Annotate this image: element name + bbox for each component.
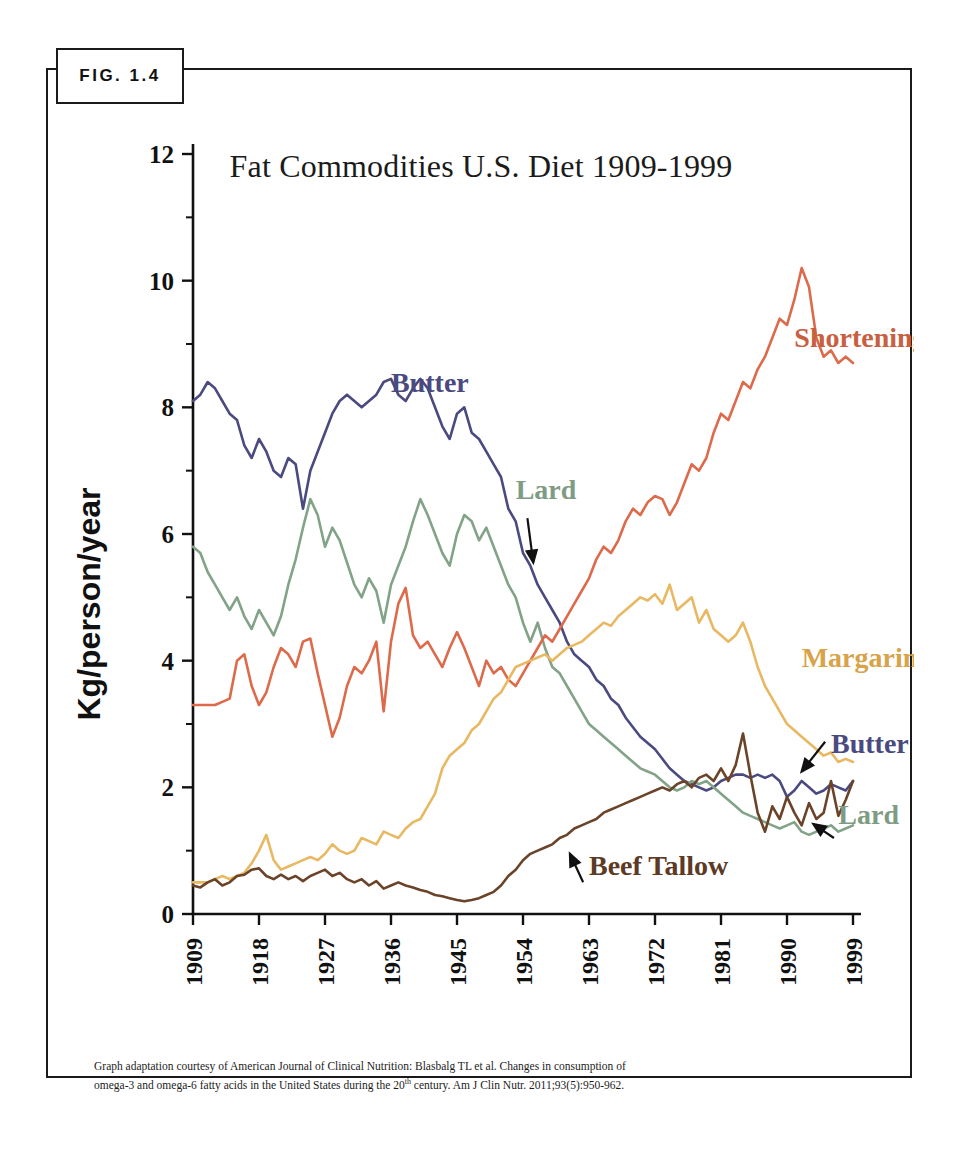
line-chart-svg: 0246810121909191819271936194519541963197… [48, 70, 914, 1080]
axes-group: 0246810121909191819271936194519541963197… [71, 141, 867, 1080]
beef-tallow-label-arrow-head [570, 854, 580, 867]
x-tick-label: 1990 [775, 938, 801, 986]
footnote-line-2a: omega-3 and omega-6 fatty acids in the U… [94, 1079, 405, 1091]
x-tick-label: 1936 [379, 938, 405, 986]
figure-number-label: FIG. 1.4 [79, 66, 160, 86]
figure-frame: Fat Commodities U.S. Diet 1909-1999 0246… [46, 68, 912, 1078]
footnote-line-1: Graph adaptation courtesy of American Jo… [94, 1060, 626, 1072]
x-tick-label: 1999 [841, 938, 867, 986]
y-tick-label: 8 [162, 394, 175, 421]
x-tick-label: 1945 [445, 938, 471, 986]
butter-label-left: Butter [391, 367, 469, 398]
y-tick-label: 0 [162, 901, 175, 928]
chart-plot-area: 0246810121909191819271936194519541963197… [48, 70, 914, 1080]
beef-tallow-label: Beef Tallow [589, 850, 729, 881]
lard-label-left: Lard [516, 474, 577, 505]
figure-page: Fat Commodities U.S. Diet 1909-1999 0246… [0, 0, 962, 1151]
series-group [193, 268, 853, 901]
margarine-label: Margarine [802, 642, 914, 673]
lard-label-right: Lard [838, 799, 899, 830]
x-tick-label: 1963 [577, 938, 603, 986]
y-tick-label: 4 [162, 648, 175, 675]
x-tick-label: 1972 [643, 938, 669, 986]
x-tick-label: 1981 [709, 938, 735, 986]
y-tick-label: 12 [149, 141, 174, 168]
x-tick-label: 1909 [181, 938, 207, 986]
butter-label-right: Butter [831, 728, 909, 759]
shortening-label: Shortening [794, 322, 914, 353]
y-tick-label: 6 [162, 521, 175, 548]
series-line-margarine [193, 585, 853, 883]
x-tick-label: 1918 [247, 938, 273, 986]
figure-footnote: Graph adaptation courtesy of American Jo… [94, 1058, 874, 1094]
y-tick-label: 2 [162, 774, 175, 801]
series-line-butter [193, 379, 853, 797]
y-axis-title: Kg/person/year [71, 488, 107, 721]
x-tick-label: 1927 [313, 938, 339, 986]
figure-number-tag: FIG. 1.4 [56, 48, 184, 104]
y-tick-label: 10 [149, 268, 174, 295]
footnote-line-2b: century. Am J Clin Nutr. 2011;93(5):950-… [411, 1079, 624, 1091]
x-tick-label: 1954 [511, 938, 537, 986]
